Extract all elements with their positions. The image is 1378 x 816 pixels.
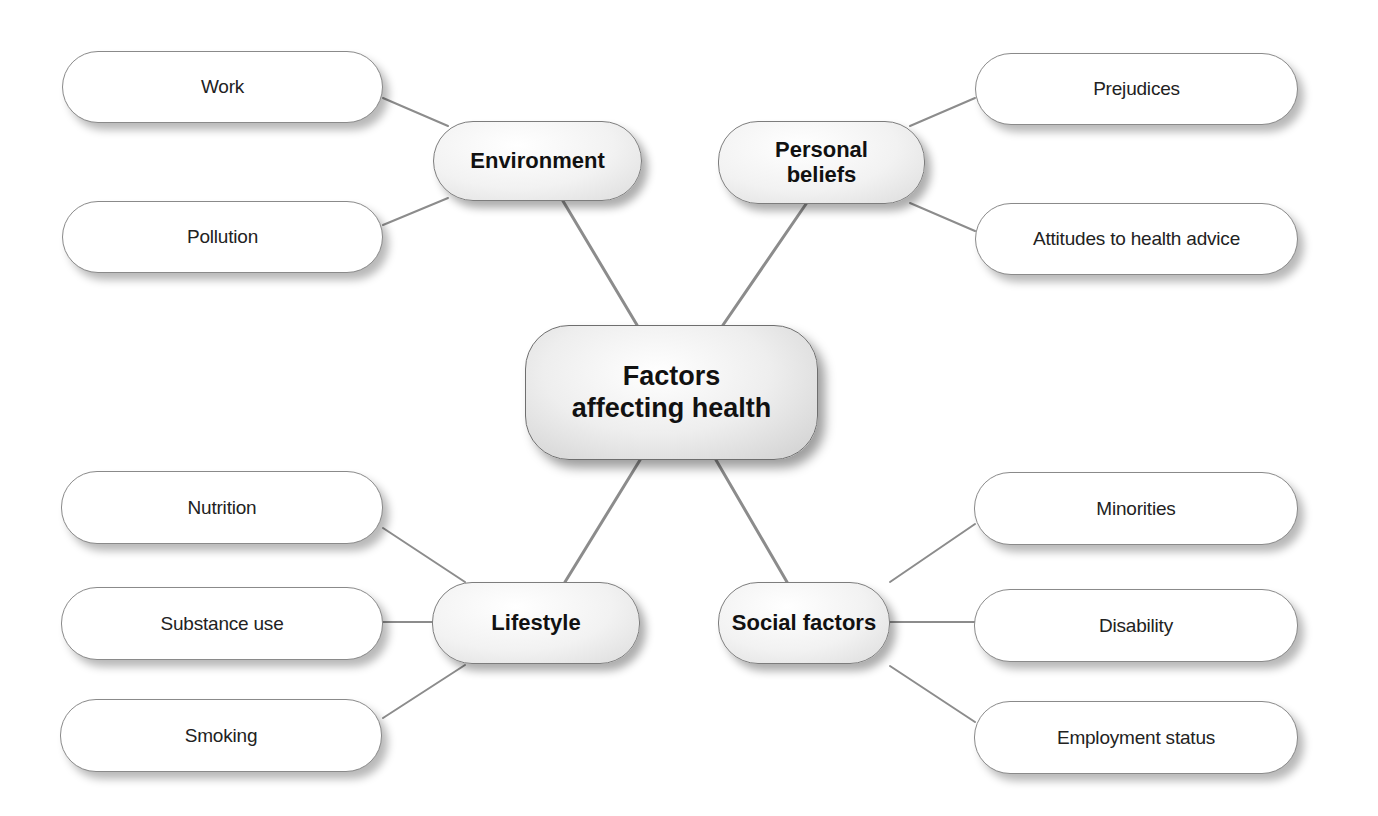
center-label: Factors affecting health bbox=[572, 361, 772, 423]
connector-environment-work bbox=[383, 98, 448, 126]
leaf-pollution: Pollution bbox=[62, 201, 383, 273]
branch-social-factors: Social factors bbox=[718, 582, 890, 664]
branch-label: Environment bbox=[470, 149, 604, 173]
connector-center-environment bbox=[563, 201, 637, 325]
connector-lifestyle-smoking bbox=[383, 665, 465, 718]
leaf-work: Work bbox=[62, 51, 383, 123]
leaf-label: Attitudes to health advice bbox=[1033, 228, 1240, 250]
leaf-label: Work bbox=[201, 76, 244, 98]
center-node: Factors affecting health bbox=[525, 325, 818, 460]
leaf-smoking: Smoking bbox=[60, 699, 382, 772]
leaf-label: Minorities bbox=[1096, 498, 1175, 520]
connector-beliefs-prejudices bbox=[910, 98, 975, 126]
leaf-label: Smoking bbox=[185, 725, 258, 747]
connector-center-lifestyle bbox=[565, 460, 640, 582]
connector-center-personal-beliefs bbox=[723, 204, 806, 325]
leaf-label: Disability bbox=[1099, 615, 1173, 637]
leaf-employment-status: Employment status bbox=[974, 701, 1298, 774]
leaf-minorities: Minorities bbox=[974, 472, 1298, 545]
branch-personal-beliefs: Personal beliefs bbox=[718, 121, 925, 204]
branch-lifestyle: Lifestyle bbox=[432, 582, 640, 664]
connector-environment-pollution bbox=[383, 198, 448, 225]
connector-social-minorities bbox=[890, 524, 975, 582]
leaf-label: Substance use bbox=[160, 613, 283, 635]
leaf-label: Employment status bbox=[1057, 727, 1215, 749]
branch-label: Lifestyle bbox=[491, 611, 580, 635]
branch-label: Social factors bbox=[732, 611, 876, 635]
leaf-attitudes-to-health-advice: Attitudes to health advice bbox=[975, 203, 1298, 275]
leaf-label: Prejudices bbox=[1093, 78, 1180, 100]
branch-environment: Environment bbox=[433, 121, 642, 201]
leaf-nutrition: Nutrition bbox=[61, 471, 383, 544]
connector-lifestyle-nutrition bbox=[383, 528, 465, 582]
connector-beliefs-attitudes bbox=[910, 203, 975, 231]
leaf-substance-use: Substance use bbox=[61, 587, 383, 660]
leaf-label: Nutrition bbox=[188, 497, 257, 519]
connector-center-social-factors bbox=[716, 460, 787, 582]
leaf-disability: Disability bbox=[974, 589, 1298, 662]
connector-social-employment bbox=[890, 666, 975, 722]
leaf-prejudices: Prejudices bbox=[975, 53, 1298, 125]
leaf-label: Pollution bbox=[187, 226, 258, 248]
branch-label: Personal beliefs bbox=[775, 138, 868, 186]
